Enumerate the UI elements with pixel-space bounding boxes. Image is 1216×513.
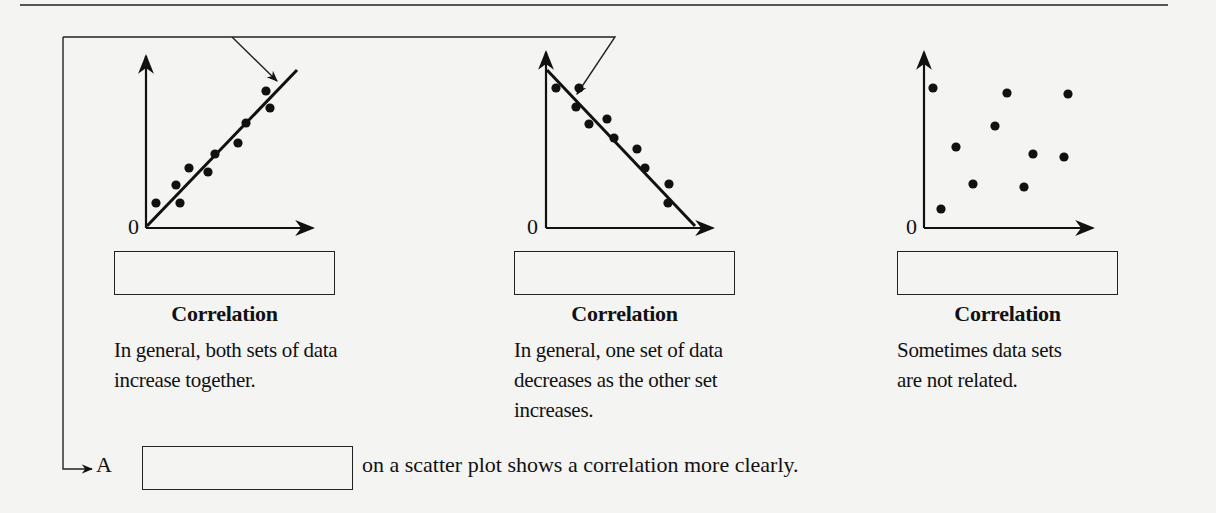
scatter-plot-positive (146, 56, 313, 228)
answer-box-none[interactable] (897, 251, 1118, 295)
data-points (151, 86, 274, 207)
origin-label: 0 (527, 214, 538, 240)
trend-line (547, 70, 695, 226)
sentence-prefix: A (96, 452, 112, 478)
panel-heading: Correlation (897, 301, 1118, 327)
answer-box-positive[interactable] (114, 251, 335, 295)
origin-label: 0 (128, 214, 139, 240)
data-points (551, 83, 673, 207)
panel-heading: Correlation (514, 301, 735, 327)
panel-description: In general, both sets of data increase t… (114, 335, 337, 395)
scatter-plot-none (924, 52, 1093, 228)
answer-box-negative[interactable] (514, 251, 735, 295)
origin-label: 0 (906, 214, 917, 240)
panel-description: Sometimes data sets are not related. (897, 335, 1062, 395)
panel-heading: Correlation (114, 301, 335, 327)
panel-description: In general, one set of data decreases as… (514, 335, 723, 425)
trend-line (147, 70, 297, 226)
sentence-suffix: on a scatter plot shows a correlation mo… (362, 452, 799, 478)
scatter-plot-negative (546, 52, 713, 228)
answer-box-sentence[interactable] (142, 446, 353, 490)
data-points (928, 83, 1072, 213)
